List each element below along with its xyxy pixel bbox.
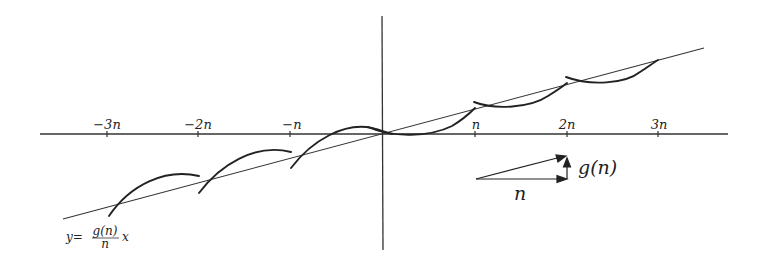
eq-denominator: n bbox=[101, 237, 109, 251]
arrow-right-icon bbox=[557, 176, 567, 183]
tick-label-3n: 3n bbox=[651, 117, 668, 132]
piecewise-curve bbox=[109, 60, 658, 216]
tick-label-minus-n: −n bbox=[282, 117, 301, 132]
arc-n bbox=[474, 83, 567, 107]
eq-suffix: x bbox=[122, 230, 129, 244]
vector-label-gn: g(n) bbox=[578, 156, 617, 178]
tick-label-2n: 2n bbox=[558, 117, 576, 132]
diagram-figure: −3n −2n −n n 2n 3n n g(n) y= g(n) n x bbox=[0, 0, 762, 267]
slope-triangle bbox=[476, 155, 571, 183]
tick-label-n: n bbox=[472, 117, 480, 132]
arrow-up-icon bbox=[564, 158, 571, 167]
line-equation-label: y= g(n) n x bbox=[65, 224, 129, 251]
arrow-diagonal-icon bbox=[556, 155, 566, 162]
vector-label-n: n bbox=[514, 182, 526, 204]
tick-label-minus-2n: −2n bbox=[184, 117, 212, 132]
tick-label-minus-3n: −3n bbox=[93, 117, 121, 132]
arc-minus-2n bbox=[199, 150, 291, 193]
arc-minus-n bbox=[291, 127, 392, 168]
eq-numerator: g(n) bbox=[93, 224, 118, 238]
eq-prefix: y= bbox=[65, 230, 83, 244]
